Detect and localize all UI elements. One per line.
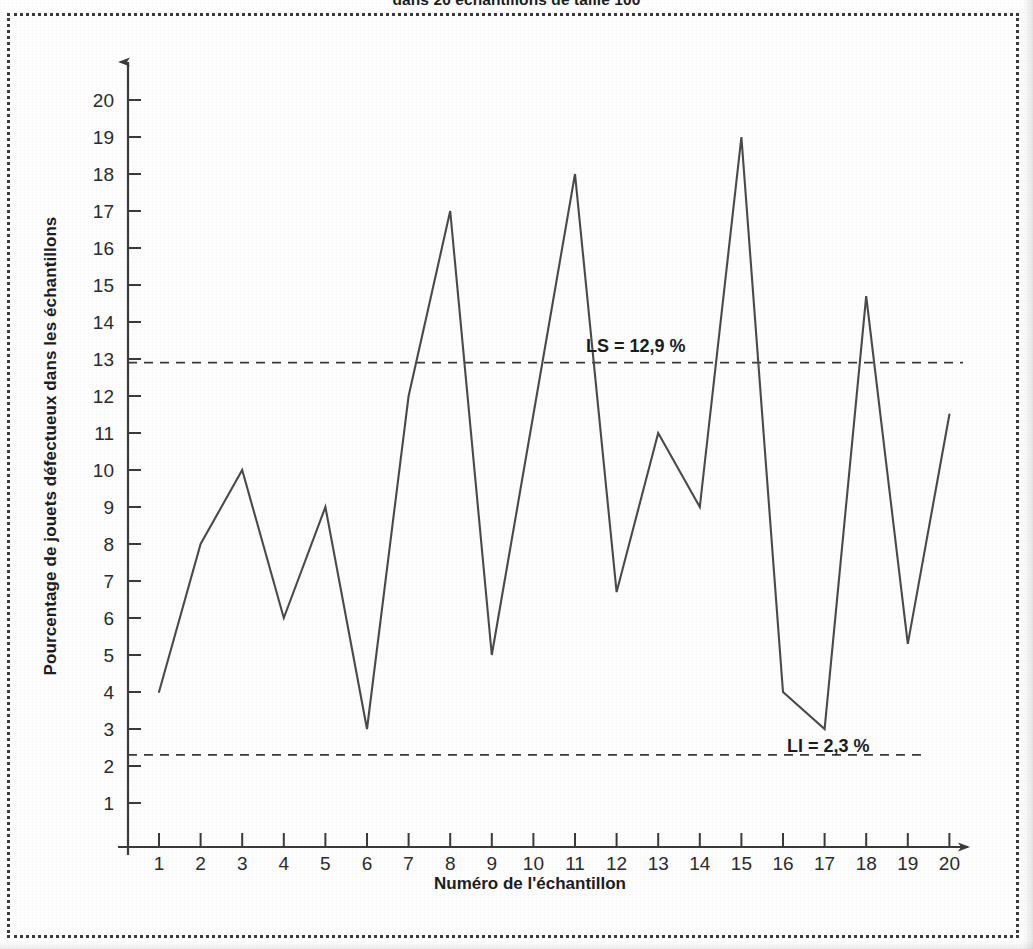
y-tick-label: 12 — [93, 386, 114, 407]
y-tick-label: 6 — [103, 608, 114, 629]
x-tick-label: 20 — [939, 853, 960, 874]
line-chart-svg: 1234567891011121314151617181920 12345678… — [0, 0, 1033, 949]
y-tick-label: 13 — [93, 349, 114, 370]
y-tick-label: 10 — [93, 460, 114, 481]
upper-limit-label: LS = 12,9 % — [586, 336, 686, 356]
y-tick-label: 9 — [103, 497, 114, 518]
y-tick-label: 16 — [93, 238, 114, 259]
lower-limit-label: LI = 2,3 % — [787, 736, 870, 756]
y-tick-label: 7 — [103, 571, 114, 592]
x-tick-label: 9 — [487, 853, 498, 874]
y-tick-label: 14 — [93, 312, 115, 333]
y-axis-ticks: 1234567891011121314151617181920 — [93, 90, 141, 814]
x-tick-label: 10 — [523, 853, 544, 874]
y-tick-label: 17 — [93, 201, 114, 222]
y-tick-label: 1 — [103, 793, 114, 814]
x-tick-label: 19 — [897, 853, 918, 874]
y-tick-label: 8 — [103, 534, 114, 555]
x-tick-label: 12 — [606, 853, 627, 874]
x-tick-label: 18 — [856, 853, 877, 874]
x-tick-label: 8 — [445, 853, 456, 874]
x-tick-label: 4 — [279, 853, 290, 874]
x-tick-label: 16 — [772, 853, 793, 874]
x-tick-label: 6 — [362, 853, 373, 874]
x-tick-label: 7 — [403, 853, 414, 874]
y-tick-label: 15 — [93, 275, 114, 296]
chart-area: Pourcentage de jouets défectueux dans le… — [0, 0, 1033, 949]
x-tick-label: 15 — [731, 853, 752, 874]
y-tick-label: 20 — [93, 90, 114, 111]
x-tick-label: 1 — [154, 853, 165, 874]
y-tick-label: 18 — [93, 164, 114, 185]
x-tick-label: 17 — [814, 853, 835, 874]
control-limit-lines — [128, 363, 963, 755]
x-tick-label: 14 — [689, 853, 711, 874]
x-tick-label: 2 — [195, 853, 206, 874]
y-tick-label: 3 — [103, 719, 114, 740]
data-series-line — [159, 137, 949, 729]
y-tick-label: 11 — [94, 423, 114, 444]
y-tick-label: 5 — [103, 645, 114, 666]
x-tick-label: 11 — [565, 853, 585, 874]
x-tick-label: 13 — [648, 853, 669, 874]
y-tick-label: 2 — [103, 756, 114, 777]
x-axis-ticks: 1234567891011121314151617181920 — [154, 833, 960, 874]
x-tick-label: 3 — [237, 853, 248, 874]
x-tick-label: 5 — [320, 853, 331, 874]
y-tick-label: 4 — [103, 682, 114, 703]
y-tick-label: 19 — [93, 127, 114, 148]
